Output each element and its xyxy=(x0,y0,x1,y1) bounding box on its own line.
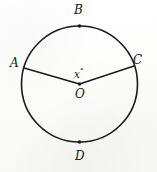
radius-line-oa xyxy=(24,68,80,84)
point-label-d: D xyxy=(75,150,85,162)
point-dot-b xyxy=(78,24,82,28)
radius-line-oc xyxy=(80,66,135,84)
point-dot-o xyxy=(78,82,81,85)
degree-symbol: ° xyxy=(80,67,84,75)
point-label-b: B xyxy=(74,4,83,16)
angle-label-x-degrees: x° xyxy=(74,66,83,79)
circle-diagram-figure: A B C D O x° xyxy=(0,0,157,172)
circle-diagram-canvas xyxy=(0,0,157,172)
point-dot-d xyxy=(78,140,82,144)
center-label-o: O xyxy=(75,88,85,100)
point-label-c: C xyxy=(133,54,142,66)
point-label-a: A xyxy=(10,57,19,69)
